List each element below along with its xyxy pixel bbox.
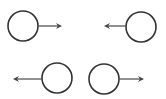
circle-shape <box>126 12 156 42</box>
figure-top-right <box>104 12 156 42</box>
circle-shape <box>42 63 72 93</box>
figure-top-left <box>8 11 62 41</box>
figure-bottom-right <box>89 64 144 94</box>
circle-shape <box>89 64 119 94</box>
circle-shape <box>8 11 38 41</box>
figure-bottom-left <box>13 63 72 93</box>
diagram-canvas <box>0 0 166 99</box>
